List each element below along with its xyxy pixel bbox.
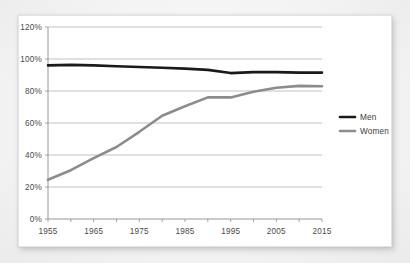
x-axis-tick-label: 1955 [38,227,57,236]
x-axis-labels: 1955196519751985199520052015 [38,227,331,236]
y-axis-tick-label: 60% [25,119,42,128]
y-axis-tick-label: 0% [30,215,42,224]
series-line-women [48,86,322,180]
y-axis-tick-label: 20% [25,183,42,192]
legend-label-men: Men [360,113,377,122]
line-chart: 0%20%40%60%80%100%120% 19551965197519851… [0,0,410,263]
y-axis-tick-label: 100% [20,55,42,64]
y-axis-tick-label: 120% [20,23,42,32]
chart-legend: MenWomen [340,113,389,136]
y-axis-tick-label: 40% [25,151,42,160]
x-axis-tick-label: 1975 [130,227,149,236]
x-axis-tick-label: 2005 [267,227,286,236]
x-axis-tick-label: 1985 [175,227,194,236]
chart-screenshot: 0%20%40%60%80%100%120% 19551965197519851… [0,0,410,263]
axis-ticks [45,27,322,222]
x-axis-tick-label: 1995 [221,227,240,236]
legend-label-women: Women [360,127,389,136]
data-series [48,65,322,180]
series-line-men [48,65,322,73]
x-axis-tick-label: 2015 [312,227,331,236]
x-axis-tick-label: 1965 [84,227,103,236]
y-axis-tick-label: 80% [25,87,42,96]
y-axis-labels: 0%20%40%60%80%100%120% [20,23,42,224]
